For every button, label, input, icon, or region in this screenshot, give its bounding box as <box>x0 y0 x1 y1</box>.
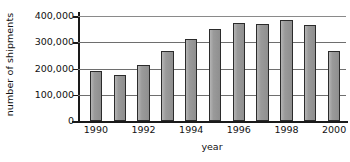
y-axis-tick-labels: 0100,000200,000300,000400,000 <box>18 0 74 128</box>
bar <box>304 25 316 121</box>
y-tick-label: 300,000 <box>35 37 74 47</box>
x-tick-label: 2000 <box>322 124 346 135</box>
y-tick-mark <box>73 121 78 123</box>
bar <box>161 51 173 121</box>
bar <box>90 71 102 121</box>
x-axis-tick-labels: 199019921994199619982000 <box>78 124 348 138</box>
y-axis-title: number of shipments <box>0 0 20 128</box>
x-tick-label: 1994 <box>179 124 203 135</box>
bar <box>256 24 268 121</box>
bar <box>185 39 197 121</box>
x-tick-label: 1990 <box>84 124 108 135</box>
y-tick-label: 100,000 <box>35 90 74 100</box>
x-tick-label: 1996 <box>227 124 251 135</box>
y-axis-title-text: number of shipments <box>5 12 16 116</box>
bar <box>328 51 340 121</box>
bar <box>114 75 126 121</box>
x-tick-label: 1992 <box>131 124 155 135</box>
bar <box>137 65 149 121</box>
bar <box>280 20 292 121</box>
y-tick-label: 200,000 <box>35 64 74 74</box>
x-tick-label: 1998 <box>274 124 298 135</box>
plot-area <box>78 16 346 121</box>
bar <box>233 23 245 121</box>
bar-chart: number of shipments 0100,000200,000300,0… <box>0 0 350 162</box>
y-tick-label: 400,000 <box>35 11 74 21</box>
x-axis-line <box>72 121 348 123</box>
x-axis-title: year <box>78 141 346 152</box>
bar <box>209 29 221 121</box>
bars-group <box>78 16 346 121</box>
